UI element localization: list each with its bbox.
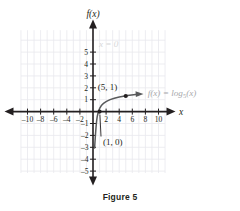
y-tick-label: 5 [84, 48, 88, 57]
equation-arg: (x) [186, 88, 196, 98]
y-tick-label: 1 [84, 95, 88, 104]
point-label-1-0: (1, 0) [103, 137, 123, 147]
y-tick-label: –4 [80, 155, 89, 164]
point-1-0 [97, 110, 101, 114]
figure-container: x = 0 [0, 0, 240, 211]
y-tick-label: 4 [84, 60, 88, 69]
x-tick-label: –8 [36, 115, 45, 124]
x-tick-label: –4 [62, 115, 71, 124]
x-tick-label: 6 [130, 115, 134, 124]
x-tick-label: –6 [49, 115, 58, 124]
x-tick-label: –10 [21, 115, 34, 124]
y-tick-label: 3 [84, 72, 88, 81]
x-tick-label: 4 [117, 115, 121, 124]
x-tick-label: 8 [144, 115, 148, 124]
log-function-graph: x = 0 [0, 0, 240, 211]
equation-lhs: f(x) = log [148, 88, 184, 98]
x-tick-label: 2 [104, 115, 108, 124]
y-tick-label: –1 [80, 119, 89, 128]
axes [5, 20, 176, 186]
x-axis-label: x [178, 107, 184, 117]
x-tick-label: 10 [155, 115, 163, 124]
svg-text:f(x) = log5(x): f(x) = log5(x) [148, 88, 197, 99]
point-leader-line [100, 115, 101, 137]
y-tick-label: –5 [80, 167, 89, 176]
x-tick-labels: –10 –8 –6 –4 –2 2 4 6 8 10 [21, 115, 163, 124]
figure-caption: Figure 5 [0, 192, 240, 202]
y-tick-label: –2 [80, 131, 89, 140]
y-tick-label: –3 [80, 143, 89, 152]
y-axis-label: f(x) [86, 9, 99, 20]
point-5-1 [124, 94, 128, 98]
equation-label: f(x) = log5(x) [148, 88, 197, 99]
y-tick-label: 2 [84, 84, 88, 93]
asymptote-label: x = 0 [98, 39, 119, 49]
point-label-5-1: (5, 1) [98, 82, 118, 92]
